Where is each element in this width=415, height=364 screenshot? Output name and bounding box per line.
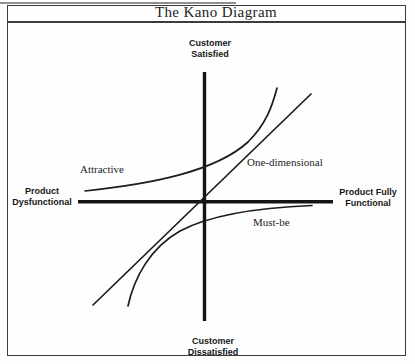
- axis-label-product-fully-functional: Product Fully Functional: [323, 187, 413, 208]
- curve-label-must-be: Must-be: [253, 216, 290, 228]
- kano-diagram-figure: The Kano Diagram Customer Satisfied Cust…: [0, 0, 415, 364]
- axis-label-product-dysfunctional: Product Dysfunctional: [0, 186, 87, 207]
- axis-label-customer-satisfied: Customer Satisfied: [170, 38, 250, 59]
- curve-label-attractive: Attractive: [80, 163, 124, 175]
- one-dimensional-line: [93, 94, 311, 305]
- attractive-curve: [85, 88, 277, 191]
- curve-label-one-dimensional: One-dimensional: [247, 156, 323, 168]
- axis-label-customer-dissatisfied: Customer Dissatisfied: [173, 336, 253, 357]
